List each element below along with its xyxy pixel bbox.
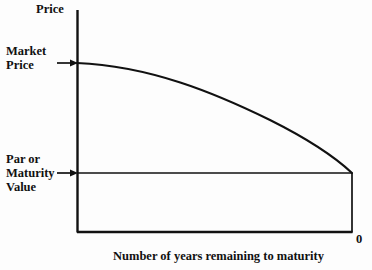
price-curve — [77, 63, 352, 173]
par-value-label-line2: Maturity — [6, 166, 55, 180]
market-price-label-line1: Market — [6, 44, 46, 58]
par-value-label-line3: Value — [6, 180, 55, 194]
market-price-arrow — [57, 59, 78, 66]
par-value-arrow — [57, 169, 78, 176]
chart-canvas — [0, 0, 372, 270]
par-value-label-line1: Par or — [6, 152, 55, 166]
bond-price-figure: Price Market Price Par or Maturity Value… — [0, 0, 372, 270]
par-value-label: Par or Maturity Value — [6, 152, 55, 194]
x-axis-zero-tick: 0 — [356, 232, 362, 246]
x-axis-caption: Number of years remaining to maturity — [113, 249, 324, 263]
market-price-label-line2: Price — [6, 58, 46, 72]
market-price-label: Market Price — [6, 44, 46, 72]
y-axis-label: Price — [36, 2, 64, 16]
